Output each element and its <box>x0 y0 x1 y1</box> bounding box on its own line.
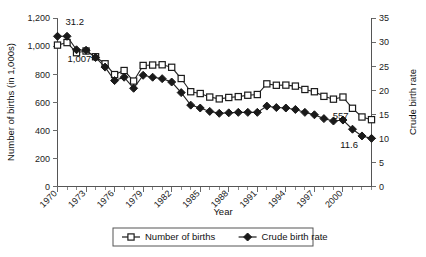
data-point-marker-open-square <box>216 96 222 102</box>
data-point-marker-filled-diamond <box>291 105 299 113</box>
x-tick-label: 2000 <box>323 188 344 209</box>
data-point-marker-open-square <box>264 81 270 87</box>
y-axis-right: 05101520253035 Crude birth rate <box>372 13 419 192</box>
y-axis-left: 02004006008001,0001,200 Number of births… <box>5 13 58 192</box>
data-point-marker-open-square <box>150 62 156 68</box>
y-tick-label-left: 1,200 <box>27 13 50 23</box>
data-point-marker-open-square <box>207 94 213 100</box>
data-point-marker-open-square <box>235 94 241 100</box>
x-tick-label: 1979 <box>123 188 144 209</box>
data-point-marker-open-square <box>330 96 336 102</box>
data-point-marker-open-square <box>169 64 175 70</box>
y-axis-right-ticks: 05101520253035 <box>372 13 390 192</box>
y-tick-label-left: 800 <box>35 70 50 80</box>
data-point-marker-open-square <box>54 42 60 48</box>
data-point-marker-filled-diamond <box>234 108 242 116</box>
data-point-marker-open-square <box>159 62 165 68</box>
data-point-marker-filled-diamond <box>282 104 290 112</box>
data-point-marker-filled-diamond <box>320 115 328 123</box>
data-point-marker-open-square <box>197 90 203 96</box>
data-point-marker-open-square <box>292 83 298 89</box>
y-axis-left-title: Number of births (in 1,000s) <box>5 43 16 161</box>
y-tick-label-right: 15 <box>379 110 389 120</box>
data-point-marker-open-square <box>359 114 365 120</box>
data-point-marker-filled-diamond <box>139 71 147 79</box>
birth-statistics-line-chart: 02004006008001,0001,200 Number of births… <box>0 0 426 257</box>
x-tick-label: 1973 <box>66 188 87 209</box>
x-tick-label: 1982 <box>152 188 173 209</box>
data-point-marker-filled-diamond <box>301 108 309 116</box>
x-tick-label: 1970 <box>38 188 59 209</box>
x-tick-label: 1991 <box>237 188 258 209</box>
data-label-annotation: 557 <box>333 110 349 121</box>
legend-label: Number of births <box>145 231 215 242</box>
data-point-marker-filled-diamond <box>206 107 214 115</box>
data-point-marker-filled-diamond <box>158 75 166 83</box>
chart-legend: Number of birthsCrude birth rate <box>113 228 328 246</box>
data-point-marker-filled-diamond <box>225 109 233 117</box>
x-tick-label: 1976 <box>95 188 116 209</box>
data-point-marker-open-square <box>349 105 355 111</box>
data-point-marker-open-square <box>340 94 346 100</box>
y-tick-label-right: 25 <box>379 62 389 72</box>
data-point-marker-open-square <box>368 117 374 123</box>
data-point-marker-open-square <box>283 82 289 88</box>
data-label-annotation: 31.2 <box>66 16 85 27</box>
data-point-marker-open-square <box>178 75 184 81</box>
data-point-marker-filled-diamond <box>310 111 318 119</box>
y-tick-label-right: 30 <box>379 37 389 47</box>
data-point-marker-filled-diamond <box>358 132 366 140</box>
series-line-crude-birth-rate <box>58 36 372 138</box>
y-tick-label-left: 400 <box>35 126 50 136</box>
data-point-marker-open-square <box>311 89 317 95</box>
data-point-marker-filled-diamond <box>54 32 62 40</box>
data-point-marker-filled-diamond <box>244 108 252 116</box>
data-label-annotation: 11.6 <box>340 139 358 150</box>
data-point-marker-open-square <box>273 82 279 88</box>
data-point-marker-filled-diamond <box>368 134 376 142</box>
data-point-marker-open-square <box>254 91 260 97</box>
y-tick-label-right: 20 <box>379 86 389 96</box>
chart-container: 02004006008001,0001,200 Number of births… <box>0 0 426 257</box>
data-point-marker-filled-diamond <box>196 104 204 112</box>
data-point-marker-filled-diamond <box>263 102 271 110</box>
data-point-marker-filled-diamond <box>272 104 280 112</box>
legend-label: Crude birth rate <box>262 231 328 242</box>
x-axis-ticks: 1970197319761979198219851988199119941997… <box>38 187 372 210</box>
y-tick-label-right: 0 <box>379 182 384 192</box>
data-point-marker-open-square <box>140 62 146 68</box>
x-tick-label: 1985 <box>180 188 201 209</box>
data-point-marker-filled-diamond <box>253 108 261 116</box>
data-label-annotation: 1,007 <box>68 53 92 64</box>
y-tick-label-left: 1,000 <box>27 41 50 51</box>
y-tick-label-left: 600 <box>35 98 50 108</box>
series-line-number-of-births <box>58 43 372 120</box>
data-point-marker-open-square <box>245 92 251 98</box>
y-axis-left-ticks: 02004006008001,0001,200 <box>27 13 57 192</box>
x-tick-label: 1997 <box>295 188 316 209</box>
legend-icon-open-square <box>128 234 134 240</box>
y-tick-label-right: 10 <box>379 134 389 144</box>
data-point-marker-open-square <box>226 94 232 100</box>
x-axis-title: Year <box>213 206 232 217</box>
data-point-marker-open-square <box>188 89 194 95</box>
y-tick-label-right: 35 <box>379 13 389 23</box>
series-plot-group <box>54 32 376 142</box>
data-point-marker-open-square <box>321 93 327 99</box>
y-tick-label-right: 5 <box>379 158 384 168</box>
x-axis: 1970197319761979198219851988199119941997… <box>38 187 372 218</box>
data-point-marker-filled-diamond <box>215 109 223 117</box>
y-axis-right-title: Crude birth rate <box>407 69 418 135</box>
y-tick-label-left: 200 <box>35 154 50 164</box>
data-point-marker-open-square <box>302 86 308 92</box>
data-point-marker-open-square <box>131 78 137 84</box>
annotation-group: 31.21,00755711.6 <box>66 16 359 150</box>
x-tick-label: 1994 <box>266 188 287 209</box>
data-point-marker-filled-diamond <box>149 73 157 81</box>
